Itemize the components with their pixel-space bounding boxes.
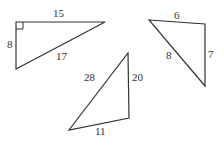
t2-side-right: 20	[132, 72, 143, 83]
t3-side-top: 6	[174, 10, 180, 21]
t3-side-right: 7	[208, 49, 214, 60]
t1-side-left: 8	[7, 39, 13, 50]
triangle-3	[149, 20, 205, 86]
t2-side-bottom: 11	[95, 126, 106, 137]
t1-side-hypotenuse: 17	[56, 51, 67, 62]
t1-side-top: 15	[53, 8, 64, 19]
right-angle-marker	[16, 22, 23, 29]
triangle-2	[69, 53, 129, 130]
t2-side-left: 28	[84, 72, 95, 83]
t3-side-left: 8	[166, 50, 172, 61]
triangles-diagram	[0, 0, 224, 144]
